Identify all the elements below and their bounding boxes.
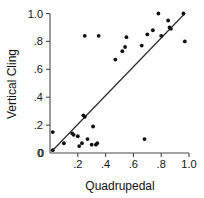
data-point xyxy=(169,27,173,31)
y-tick-label: 0 xyxy=(37,147,43,159)
data-point xyxy=(159,34,163,38)
data-point xyxy=(90,143,94,147)
regression-line xyxy=(53,14,185,151)
y-axis-ticks xyxy=(46,14,50,126)
x-tick-label: .8 xyxy=(157,158,166,170)
y-tick-label: 1.0 xyxy=(28,8,43,20)
y-tick-label: .6 xyxy=(34,63,43,75)
data-point xyxy=(143,137,147,141)
data-point xyxy=(62,141,66,145)
x-tick-label: 1.0 xyxy=(181,158,196,170)
data-point xyxy=(80,141,84,145)
data-point xyxy=(51,148,55,152)
data-point xyxy=(83,115,87,119)
data-point xyxy=(86,137,90,141)
data-point xyxy=(83,34,87,38)
data-point xyxy=(76,134,80,138)
y-axis-tick-labels: 0.2.4.6.81.0 xyxy=(28,8,43,160)
x-tick-label: .4 xyxy=(101,158,110,170)
data-point xyxy=(157,12,161,16)
y-tick-label: .4 xyxy=(34,91,43,103)
y-axis-title: Vertical Cling xyxy=(5,49,19,119)
data-point xyxy=(151,28,155,32)
data-point xyxy=(145,33,149,37)
data-point xyxy=(140,44,144,48)
data-point xyxy=(97,34,101,38)
data-point xyxy=(183,40,187,44)
data-point xyxy=(91,125,95,129)
y-tick-label: .2 xyxy=(34,119,43,131)
data-point xyxy=(51,130,55,134)
x-axis-ticks xyxy=(78,153,189,157)
data-point xyxy=(120,49,124,53)
data-point xyxy=(72,133,76,137)
data-point xyxy=(166,19,170,23)
x-tick-label: .2 xyxy=(73,158,82,170)
data-point xyxy=(125,35,129,39)
x-axis-title: Quadrupedal xyxy=(85,179,154,193)
plot-canvas: 0.2.4.6.81.0 0.2.4.6.81.0 Quadrupedal Ve… xyxy=(0,0,204,198)
y-tick-label: .8 xyxy=(34,35,43,47)
scatter-plot-figure: 0.2.4.6.81.0 0.2.4.6.81.0 Quadrupedal Ve… xyxy=(0,0,204,198)
data-point xyxy=(123,45,127,49)
x-axis-tick-labels: 0.2.4.6.81.0 xyxy=(38,147,197,170)
data-point xyxy=(113,58,117,62)
data-point xyxy=(95,141,99,145)
data-point xyxy=(77,144,81,148)
x-tick-label: .6 xyxy=(129,158,138,170)
data-point xyxy=(182,12,186,16)
